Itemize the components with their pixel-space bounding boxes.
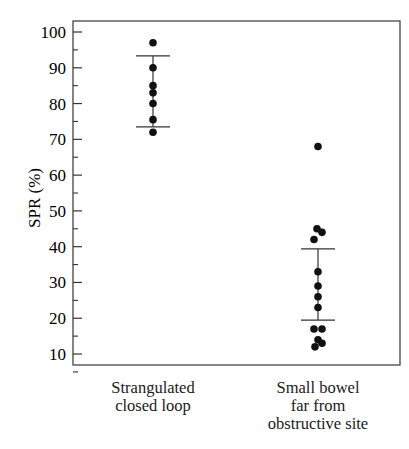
y-tick-label: 100 [41, 23, 67, 42]
data-point [314, 143, 322, 151]
y-axis: 102030405060708090100 [41, 23, 83, 372]
category-label-line: Small bowel [233, 379, 403, 397]
category-label-line: Strangulated [68, 379, 238, 397]
data-point [149, 64, 157, 72]
category-label-line: far from [233, 397, 403, 415]
data-point [149, 89, 157, 97]
y-tick-label: 60 [49, 166, 66, 185]
data-point [149, 100, 157, 108]
data-point [149, 128, 157, 136]
y-axis-label: SPR (%) [25, 168, 44, 228]
y-tick-label: 80 [49, 95, 66, 114]
series-group-1 [301, 143, 335, 351]
data-point [314, 268, 322, 276]
category-label-line: closed loop [68, 397, 238, 415]
series-layer [136, 39, 335, 351]
y-tick-label: 30 [49, 273, 66, 292]
data-point [314, 293, 322, 301]
dot-plot: 102030405060708090100 SPR (%) [0, 0, 409, 380]
y-tick-label: 70 [49, 130, 66, 149]
category-label-line: obstructive site [233, 415, 403, 433]
y-tick-label: 90 [49, 59, 66, 78]
y-tick-label: 40 [49, 238, 66, 257]
plot-frame [73, 21, 400, 365]
category-label-small-bowel: Small bowelfar fromobstructive site [233, 379, 403, 433]
data-point [311, 343, 319, 351]
data-point [310, 325, 318, 333]
data-point [310, 236, 318, 244]
data-point [149, 116, 157, 124]
data-point [149, 82, 157, 90]
data-point [149, 39, 157, 47]
data-point [318, 339, 326, 347]
data-point [314, 304, 322, 312]
y-tick-label: 50 [49, 202, 66, 221]
category-label-strangulated: Strangulatedclosed loop [68, 379, 238, 415]
data-point [318, 229, 326, 237]
series-group-0 [136, 39, 170, 136]
y-tick-label: 10 [49, 345, 66, 364]
y-tick-label: 20 [49, 309, 66, 328]
data-point [318, 325, 326, 333]
data-point [314, 282, 322, 290]
